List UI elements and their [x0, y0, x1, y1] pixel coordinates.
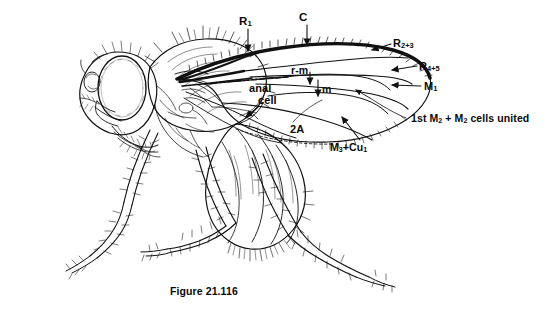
label-cell: cell: [258, 95, 277, 106]
label-m1: M1: [424, 81, 437, 93]
figure-panel: R1 C R2+3 R4+5 M1 r-m m anal cell 2A M3+…: [0, 0, 558, 325]
label-r-m-crossvein: r-m: [291, 65, 308, 76]
fly-line-drawing: [0, 0, 558, 325]
label-costa: C: [299, 12, 307, 24]
label-2a: 2A: [290, 124, 304, 135]
label-m3-cu1: M3+Cu1: [330, 142, 367, 154]
label-r4-5: R4+5: [419, 61, 440, 73]
label-anal: anal: [249, 83, 271, 94]
abdomen-group: [206, 124, 314, 261]
figure-caption: Figure 21.116: [170, 286, 238, 297]
label-r2-3: R2+3: [393, 38, 414, 50]
label-cells-united: 1st M2 + M2 cells united: [411, 113, 529, 125]
head-group: [80, 41, 160, 160]
label-r1: R1: [239, 16, 252, 28]
label-m-crossvein: m: [322, 84, 331, 95]
